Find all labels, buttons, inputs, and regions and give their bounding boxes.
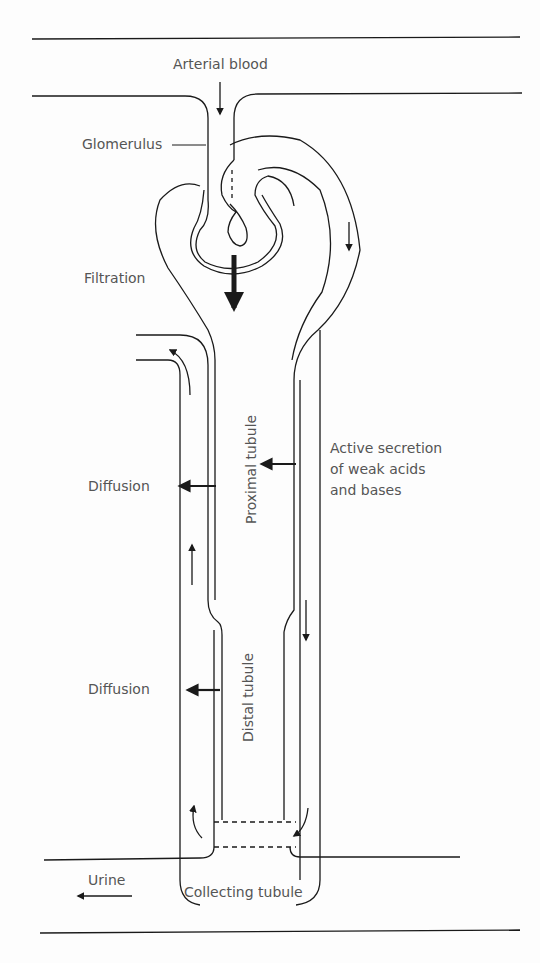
label-active-secretion-1: Active secretion (330, 440, 442, 457)
label-arterial-blood: Arterial blood (173, 56, 268, 73)
nephron-diagram: Arterial blood Glomerulus Filtration Pro… (0, 0, 540, 963)
label-glomerulus: Glomerulus (82, 136, 162, 153)
vessel-lower-right (234, 93, 522, 160)
nephron-drawing (0, 0, 540, 963)
label-proximal-tubule: Proximal tubule (243, 415, 260, 524)
label-diffusion-upper: Diffusion (88, 478, 150, 495)
label-diffusion-lower: Diffusion (88, 681, 150, 698)
vessel-top-line (32, 37, 520, 39)
label-urine: Urine (88, 872, 125, 889)
label-active-secretion-2: of weak acids (330, 461, 426, 478)
label-collecting-tubule: Collecting tubule (184, 884, 303, 901)
label-filtration: Filtration (84, 270, 145, 287)
label-active-secretion-3: and bases (330, 482, 401, 499)
label-distal-tubule: Distal tubule (240, 653, 257, 742)
